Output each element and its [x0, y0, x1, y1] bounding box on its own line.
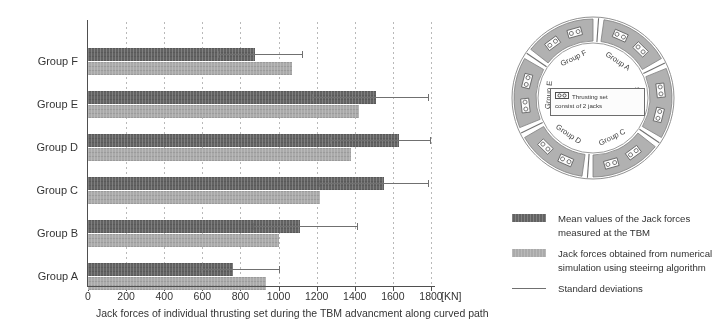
gridline-1800 — [431, 22, 432, 284]
category-axis-labels: Group AGroup BGroup CGroup DGroup EGroup… — [0, 22, 84, 284]
ring-segment-divider — [597, 18, 599, 42]
legend-swatch-simulated — [512, 249, 546, 257]
ring-segment-group-a — [601, 20, 661, 70]
thrusting-set-note: Thrusting set consist of 2 jacks — [550, 88, 645, 116]
x-tick-label-1800: 1800 — [419, 290, 442, 302]
x-axis-unit-label: [KN] — [441, 290, 461, 302]
category-label-group-f: Group F — [38, 55, 78, 67]
bar-group-group-b — [88, 220, 431, 248]
x-tick-label-200: 200 — [117, 290, 135, 302]
bar-simulated-group-b — [88, 234, 279, 247]
ring-segment-group-e — [514, 59, 544, 128]
ring-label-group-d: Group D — [554, 122, 583, 146]
ring-label-group-f: Group F — [559, 48, 588, 68]
bar-group-group-c — [88, 177, 431, 205]
category-label-group-b: Group B — [37, 227, 78, 239]
thrusting-set-note-line1: Thrusting set — [572, 93, 608, 100]
error-bar-group-b — [253, 226, 358, 227]
error-bar-group-f — [218, 54, 303, 55]
ring-segment-divider — [587, 154, 589, 178]
bar-simulated-group-c — [88, 191, 320, 204]
legend-item-0: Mean values of the Jack forces measured … — [512, 212, 717, 239]
x-tick-label-800: 800 — [232, 290, 250, 302]
jack-pair-marker — [521, 98, 531, 113]
category-label-group-e: Group E — [37, 98, 78, 110]
error-bar-group-a — [201, 269, 280, 270]
legend-line-marker — [512, 288, 546, 289]
x-tick-label-400: 400 — [155, 290, 173, 302]
x-axis-line — [87, 286, 435, 287]
chart-legend: Mean values of the Jack forces measured … — [512, 212, 717, 310]
x-tick-label-600: 600 — [194, 290, 212, 302]
legend-label-0: Mean values of the Jack forces measured … — [558, 212, 717, 239]
legend-label-2: Standard deviations — [558, 282, 717, 296]
bar-simulated-group-e — [88, 105, 359, 118]
ring-segment-group-b — [642, 68, 672, 137]
category-label-group-c: Group C — [36, 184, 78, 196]
jack-pair-icon — [555, 92, 569, 102]
plot-area — [88, 22, 431, 284]
bar-group-group-e — [88, 91, 431, 119]
figure-root: Group AGroup BGroup CGroup DGroup EGroup… — [0, 0, 721, 334]
jack-pair-marker — [656, 83, 666, 98]
tbm-ring-diagram: Group AGroup BGroup CGroup DGroup EGroup… — [498, 6, 688, 191]
category-label-group-d: Group D — [36, 141, 78, 153]
x-tick-label-1400: 1400 — [343, 290, 366, 302]
legend-item-2: Standard deviations — [512, 282, 717, 302]
bar-group-group-d — [88, 134, 431, 162]
error-bar-group-d — [330, 140, 431, 141]
x-tick-label-1600: 1600 — [381, 290, 404, 302]
error-bar-group-e — [312, 97, 429, 98]
bar-group-group-f — [88, 48, 431, 76]
bar-simulated-group-d — [88, 148, 351, 161]
bar-chart: Group AGroup BGroup CGroup DGroup EGroup… — [0, 0, 470, 334]
x-tick-label-1000: 1000 — [267, 290, 290, 302]
y-axis-line — [87, 20, 88, 286]
category-label-group-a: Group A — [38, 270, 78, 282]
x-axis-caption: Jack forces of individual thrusting set … — [96, 307, 489, 319]
bar-simulated-group-f — [88, 62, 292, 75]
x-tick-label-0: 0 — [85, 290, 91, 302]
error-bar-group-c — [319, 183, 429, 184]
x-tick-label-1200: 1200 — [305, 290, 328, 302]
thrusting-set-note-line2: consist of 2 jacks — [555, 102, 602, 109]
legend-swatch-measured — [512, 214, 546, 222]
bar-simulated-group-a — [88, 277, 266, 290]
legend-label-1: Jack forces obtained from numerical simu… — [558, 247, 717, 274]
legend-item-1: Jack forces obtained from numerical simu… — [512, 247, 717, 274]
